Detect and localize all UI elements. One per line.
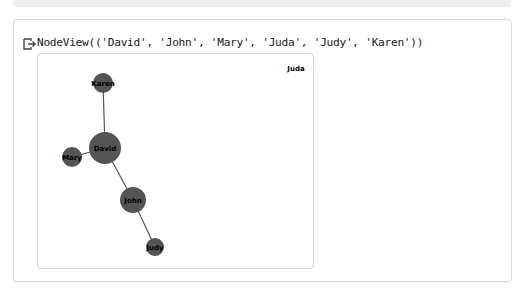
node-label-judy: Judy xyxy=(145,244,164,252)
output-cell: NodeView(('David', 'John', 'Mary', 'Juda… xyxy=(13,19,512,282)
output-arrow-icon[interactable] xyxy=(22,37,36,51)
node-label-john: John xyxy=(123,197,141,205)
network-graph: KarenDavidMaryJohnJudyJuda xyxy=(38,54,313,268)
output-text: NodeView(('David', 'John', 'Mary', 'Juda… xyxy=(37,36,423,49)
previous-cell-bar xyxy=(13,0,511,7)
node-label-david: David xyxy=(94,145,117,153)
node-label-karen: Karen xyxy=(91,80,114,88)
graph-plot: KarenDavidMaryJohnJudyJuda xyxy=(37,53,314,269)
node-label-mary: Mary xyxy=(62,154,82,162)
node-label-juda: Juda xyxy=(286,65,305,73)
